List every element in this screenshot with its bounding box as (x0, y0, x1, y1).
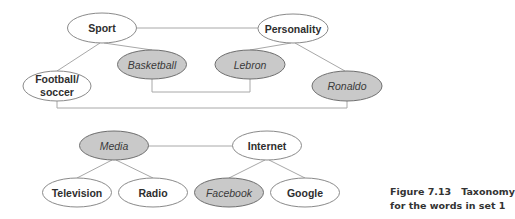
node-google-label: Google (287, 187, 323, 199)
node-radio-label: Radio (138, 187, 167, 199)
edge-basketball-lebron (152, 79, 250, 92)
edge-personality-lebron (250, 43, 291, 50)
node-basketball: Basketball (118, 50, 187, 79)
node-sport-label: Sport (88, 22, 116, 34)
node-internet: Internet (233, 131, 302, 160)
node-media: Media (80, 131, 149, 160)
node-facebook-label: Facebook (206, 187, 253, 199)
figure-label: Figure 7.13 (390, 186, 451, 197)
node-sport: Sport (68, 13, 137, 43)
node-football-label-line1: Football/ (35, 73, 79, 85)
node-radio: Radio (119, 178, 188, 207)
node-lebron-label: Lebron (234, 59, 267, 71)
node-football-label-line2: soccer (40, 86, 74, 98)
caption-title-line1: Taxonomy (461, 186, 515, 197)
edge-media-television (77, 160, 112, 178)
node-basketball-label: Basketball (128, 59, 177, 71)
edge-football-ronaldo (57, 101, 347, 108)
node-football-soccer: Football/ soccer (23, 71, 91, 101)
node-ronaldo-label: Ronaldo (327, 80, 366, 92)
caption-title-line2: for the words in set 1 (390, 199, 515, 213)
edge-internet-facebook (229, 160, 265, 178)
node-lebron: Lebron (215, 50, 285, 79)
node-personality-label: Personality (265, 23, 322, 35)
edge-personality-ronaldo (295, 43, 345, 71)
edge-sport-basketball (104, 43, 152, 50)
edge-media-radio (116, 160, 153, 178)
node-media-label: Media (100, 140, 129, 152)
node-television: Television (43, 178, 112, 207)
node-google: Google (271, 178, 340, 207)
node-television-label: Television (52, 187, 103, 199)
node-ronaldo: Ronaldo (312, 71, 382, 101)
edge-internet-google (269, 160, 305, 178)
figure-caption: Figure 7.13Taxonomy for the words in set… (390, 185, 515, 213)
caption-line1: Figure 7.13Taxonomy (390, 185, 515, 199)
node-internet-label: Internet (248, 140, 287, 152)
node-personality: Personality (258, 14, 328, 43)
edge-sport-football (57, 43, 100, 71)
node-facebook: Facebook (195, 178, 264, 207)
